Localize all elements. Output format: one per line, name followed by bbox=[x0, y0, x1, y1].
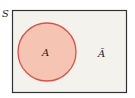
venn-diagram: S A Ā bbox=[0, 0, 135, 98]
universe-label: S bbox=[2, 8, 9, 19]
set-a-label: A bbox=[41, 47, 49, 58]
complement-label: Ā bbox=[97, 48, 105, 59]
